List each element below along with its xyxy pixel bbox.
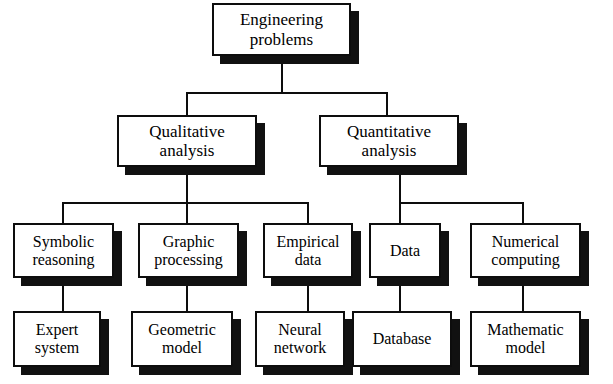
node-label-line2: reasoning xyxy=(32,251,94,269)
node-label-line1: Data xyxy=(390,242,420,260)
connector-bus-to-symbolic xyxy=(62,202,64,223)
node-label-line2: analysis xyxy=(149,141,225,160)
node-label-line2: analysis xyxy=(347,141,431,160)
node-face: Mathematic model xyxy=(470,311,581,367)
node-numerical-computing[interactable]: Numerical computing xyxy=(470,223,581,278)
node-label-line2: data xyxy=(276,251,339,269)
node-label-line1: Geometric xyxy=(148,321,216,339)
connector-bus-to-graphic xyxy=(186,202,188,223)
node-label-line1: Symbolic xyxy=(32,233,94,251)
node-label-line2: model xyxy=(487,339,563,357)
node-database[interactable]: Database xyxy=(352,311,452,367)
node-label-line1: Expert xyxy=(35,321,79,339)
node-label-line2: problems xyxy=(240,30,323,49)
node-label-line1: Qualitative xyxy=(149,122,225,141)
node-geometric-model[interactable]: Geometric model xyxy=(131,311,233,367)
node-face: Geometric model xyxy=(131,311,233,367)
node-label-line2: model xyxy=(148,339,216,357)
node-face: Neural network xyxy=(255,311,345,367)
connector-bus-to-data xyxy=(399,202,401,223)
node-label-line2: computing xyxy=(491,251,559,269)
node-engineering-problems[interactable]: Engineering problems xyxy=(212,3,351,56)
node-face: Numerical computing xyxy=(470,223,581,278)
node-quantitative-analysis[interactable]: Quantitative analysis xyxy=(319,115,459,167)
node-graphic-processing[interactable]: Graphic processing xyxy=(138,223,239,278)
connector-bus-level2 xyxy=(186,92,388,94)
node-label-line1: Numerical xyxy=(491,233,559,251)
node-face: Data xyxy=(369,223,441,278)
node-label-line2: network xyxy=(274,339,326,357)
node-qualitative-analysis[interactable]: Qualitative analysis xyxy=(117,115,257,167)
node-label-line1: Engineering xyxy=(240,10,323,29)
node-face: Engineering problems xyxy=(212,3,351,56)
diagram-canvas: Engineering problems Qualitative analysi… xyxy=(0,0,613,384)
connector-bus-to-quantitative xyxy=(386,92,388,115)
node-data[interactable]: Data xyxy=(369,223,441,278)
node-label-line2: system xyxy=(35,339,79,357)
node-label-line1: Graphic xyxy=(154,233,222,251)
node-label-line1: Empirical xyxy=(276,233,339,251)
node-label-line1: Mathematic xyxy=(487,321,563,339)
node-face: Database xyxy=(352,311,452,367)
node-neural-network[interactable]: Neural network xyxy=(255,311,345,367)
node-label-line1: Database xyxy=(373,330,432,348)
connector-bus-to-qualitative xyxy=(186,92,188,115)
node-face: Graphic processing xyxy=(138,223,239,278)
connector-bus-to-numerical xyxy=(522,202,524,223)
node-face: Qualitative analysis xyxy=(117,115,257,167)
node-face: Quantitative analysis xyxy=(319,115,459,167)
node-empirical-data[interactable]: Empirical data xyxy=(263,223,353,278)
connector-bus-to-empirical xyxy=(307,202,309,223)
connector-bus-level3-right xyxy=(399,202,524,204)
node-label-line2: processing xyxy=(154,251,222,269)
node-symbolic-reasoning[interactable]: Symbolic reasoning xyxy=(13,223,114,278)
node-expert-system[interactable]: Expert system xyxy=(13,311,101,367)
node-mathematic-model[interactable]: Mathematic model xyxy=(470,311,581,367)
node-face: Expert system xyxy=(13,311,101,367)
node-label-line1: Quantitative xyxy=(347,122,431,141)
node-face: Empirical data xyxy=(263,223,353,278)
node-label-line1: Neural xyxy=(274,321,326,339)
node-face: Symbolic reasoning xyxy=(13,223,114,278)
